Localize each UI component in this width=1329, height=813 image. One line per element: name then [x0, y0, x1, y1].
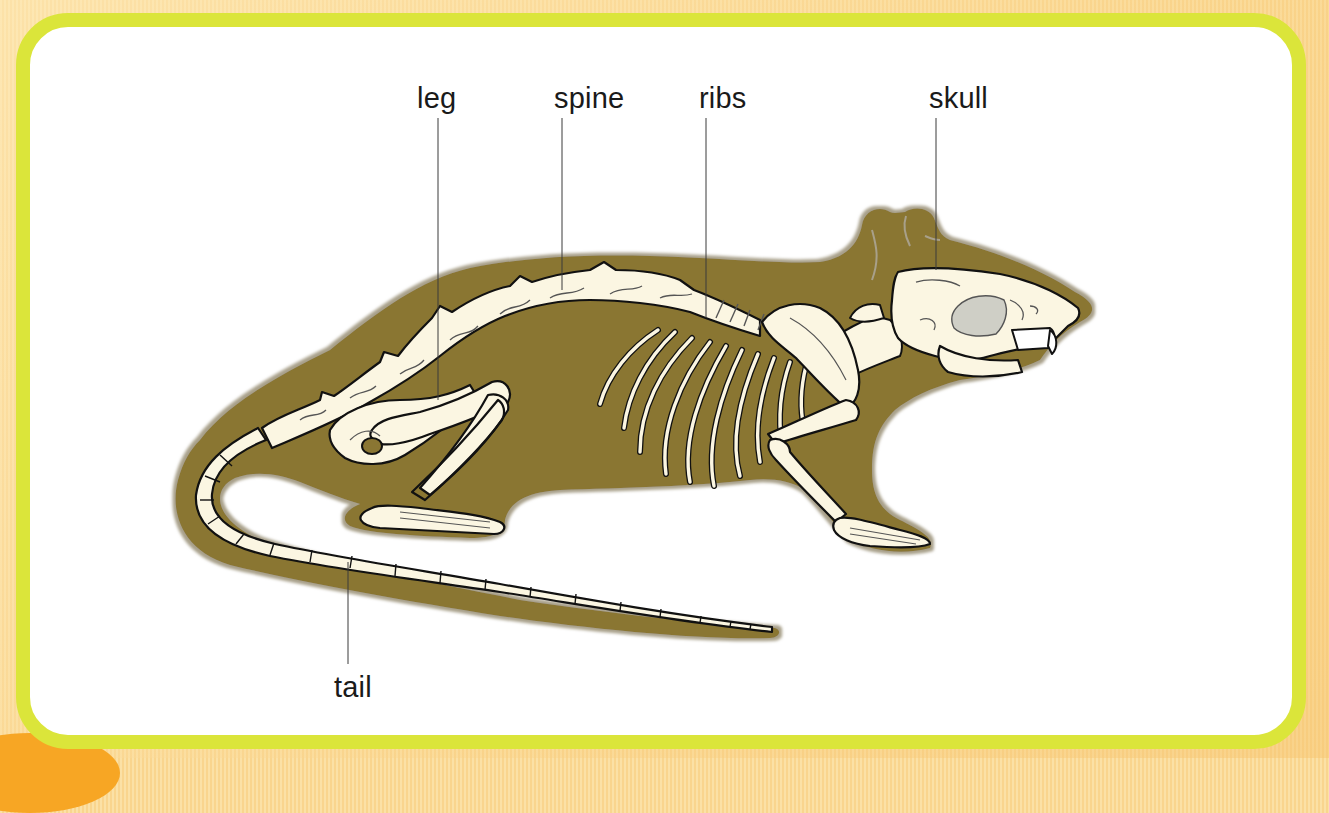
label-skull: skull — [929, 84, 988, 113]
label-spine: spine — [554, 84, 624, 113]
label-leg: leg — [417, 84, 456, 113]
label-ribs: ribs — [699, 84, 747, 113]
label-tail: tail — [334, 673, 372, 702]
pelvis-hole — [362, 438, 382, 454]
